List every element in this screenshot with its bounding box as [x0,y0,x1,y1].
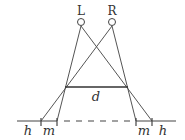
label-d: d [92,89,100,104]
ray-right-to-outer-left [41,26,112,121]
label-h-left: h [24,123,32,138]
ray-left-to-outer-right [81,26,152,121]
node-left-circle-icon [78,19,85,26]
stereo-diagram: L R d h m m h [0,0,185,140]
ray-right-to-inner-right [112,26,136,121]
label-R: R [107,4,117,18]
label-h-right: h [159,123,167,138]
node-right-circle-icon [109,19,116,26]
label-m-left: m [43,123,55,138]
ray-left-to-inner-left [57,26,81,121]
label-m-right: m [138,123,150,138]
label-L: L [77,4,85,18]
